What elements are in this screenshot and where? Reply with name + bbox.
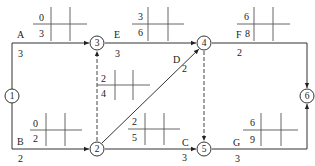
node-1: 1 — [5, 89, 19, 103]
activity-d-label: D — [173, 54, 180, 65]
activity-f-arrow — [212, 43, 307, 88]
param-grid-b: 0 2 — [30, 113, 82, 146]
activity-b-duration: 2 — [18, 153, 23, 164]
node-5: 5 — [197, 142, 211, 156]
param-b-top: 0 — [33, 118, 38, 129]
param-grid-f: 6 8 — [237, 7, 290, 41]
param-grid-c: 2 5 — [128, 113, 180, 145]
activity-f-label: F — [236, 29, 242, 40]
param-e-top: 3 — [138, 11, 143, 22]
activity-e-label: E — [114, 29, 120, 40]
activity-g-duration: 3 — [235, 153, 240, 164]
network-diagram: 0 3 3 6 6 8 2 4 0 2 2 5 6 — [0, 0, 315, 166]
svg-text:1: 1 — [10, 91, 15, 101]
node-3: 3 — [90, 36, 104, 50]
param-grid-g: 6 9 — [243, 113, 298, 146]
node-2: 2 — [90, 142, 104, 156]
node-4: 4 — [197, 36, 211, 50]
svg-text:6: 6 — [305, 91, 310, 101]
activity-a-label: A — [17, 29, 25, 40]
param-f-top: 6 — [244, 11, 249, 22]
param-dummy-bottom: 4 — [101, 88, 106, 99]
param-b-bottom: 2 — [33, 133, 38, 144]
activity-a-arrow — [12, 43, 89, 89]
param-grid-a: 0 3 — [33, 7, 87, 41]
svg-text:2: 2 — [95, 144, 100, 154]
param-grid-e: 3 6 — [132, 7, 184, 41]
param-c-top: 2 — [132, 116, 137, 127]
activity-g-label: G — [233, 137, 240, 148]
param-g-bottom: 9 — [250, 134, 255, 145]
param-grid-dummy-2-3: 2 4 — [97, 70, 150, 100]
param-g-top: 6 — [250, 117, 255, 128]
node-6: 6 — [300, 89, 314, 103]
activity-g-arrow — [212, 104, 307, 149]
param-f-bottom: 8 — [245, 28, 250, 39]
activity-c-duration: 3 — [182, 152, 187, 163]
activity-a-duration: 3 — [18, 48, 23, 59]
activity-f-duration: 2 — [237, 47, 242, 58]
param-a-bottom: 3 — [39, 28, 44, 39]
activity-c-label: C — [182, 137, 189, 148]
param-e-bottom: 6 — [138, 27, 143, 38]
param-c-bottom: 5 — [132, 132, 137, 143]
activity-b-label: B — [17, 136, 24, 147]
activity-d-duration: 2 — [182, 63, 187, 74]
activity-e-duration: 3 — [115, 48, 120, 59]
param-dummy-top: 2 — [101, 73, 106, 84]
param-a-top: 0 — [39, 12, 44, 23]
svg-text:3: 3 — [95, 38, 100, 48]
svg-text:4: 4 — [202, 38, 207, 48]
svg-text:5: 5 — [202, 144, 207, 154]
